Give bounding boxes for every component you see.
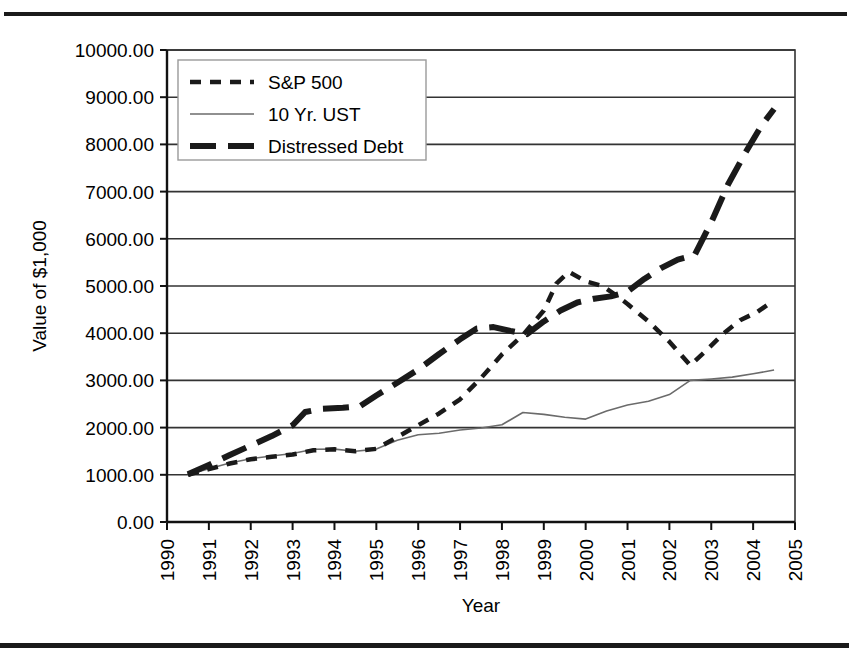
x-axis-tick-labels: 1990199119921993199419951996199719981999… — [157, 539, 806, 582]
x-tick-label: 2000 — [576, 539, 597, 581]
legend-label: 10 Yr. UST — [268, 104, 361, 125]
x-tick-label: 1999 — [534, 539, 555, 581]
chart-figure: 0.001000.002000.003000.004000.005000.006… — [0, 16, 849, 641]
chart-legend: S&P 50010 Yr. USTDistressed Debt — [178, 60, 426, 160]
x-tick-label: 1998 — [492, 539, 513, 581]
data-series — [188, 109, 774, 475]
y-tick-label: 1000.00 — [85, 465, 154, 486]
y-tick-label: 10000.00 — [75, 40, 154, 61]
y-tick-label: 6000.00 — [85, 229, 154, 250]
y-tick-label: 3000.00 — [85, 370, 154, 391]
x-tick-label: 2004 — [743, 539, 764, 582]
x-tick-label: 1990 — [157, 539, 178, 581]
y-tick-label: 0.00 — [117, 512, 154, 533]
legend-label: S&P 500 — [268, 72, 343, 93]
x-axis-title: Year — [462, 595, 501, 616]
y-axis-title: Value of $1,000 — [29, 220, 50, 352]
figure-page: 0.001000.002000.003000.004000.005000.006… — [0, 0, 849, 655]
x-tick-label: 2002 — [659, 539, 680, 581]
bottom-rule — [0, 643, 849, 648]
x-tick-label: 2001 — [618, 539, 639, 581]
series-line — [188, 109, 774, 474]
x-tick-label: 1995 — [366, 539, 387, 581]
y-tick-label: 8000.00 — [85, 134, 154, 155]
y-tick-label: 9000.00 — [85, 87, 154, 108]
x-tick-label: 1991 — [199, 539, 220, 581]
y-tick-label: 5000.00 — [85, 276, 154, 297]
y-axis-tick-labels: 0.001000.002000.003000.004000.005000.006… — [75, 40, 154, 533]
series-line — [188, 370, 774, 475]
y-tick-label: 2000.00 — [85, 418, 154, 439]
x-axis-ticks — [167, 522, 795, 530]
y-tick-label: 7000.00 — [85, 182, 154, 203]
x-tick-label: 1997 — [450, 539, 471, 581]
series-line — [188, 272, 774, 475]
x-tick-label: 2005 — [785, 539, 806, 581]
x-tick-label: 1994 — [324, 539, 345, 582]
y-tick-label: 4000.00 — [85, 323, 154, 344]
legend-label: Distressed Debt — [268, 136, 404, 157]
x-tick-label: 1993 — [283, 539, 304, 581]
x-tick-label: 1992 — [241, 539, 262, 581]
x-tick-label: 1996 — [408, 539, 429, 581]
line-chart: 0.001000.002000.003000.004000.005000.006… — [0, 16, 849, 641]
x-tick-label: 2003 — [701, 539, 722, 581]
